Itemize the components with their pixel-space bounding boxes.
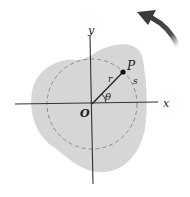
radius-label: r bbox=[108, 74, 113, 84]
arc-length-label: s bbox=[133, 76, 138, 86]
y-axis-label: y bbox=[87, 24, 95, 37]
origin-label: O bbox=[80, 107, 90, 120]
rigid-body-diagram: y x O P r s θ bbox=[0, 0, 190, 197]
point-p-label: P bbox=[126, 59, 136, 73]
angle-theta-label: θ bbox=[105, 91, 111, 102]
rotation-arrow-icon bbox=[152, 18, 178, 46]
x-axis-label: x bbox=[163, 97, 170, 110]
point-p-dot bbox=[120, 69, 125, 74]
